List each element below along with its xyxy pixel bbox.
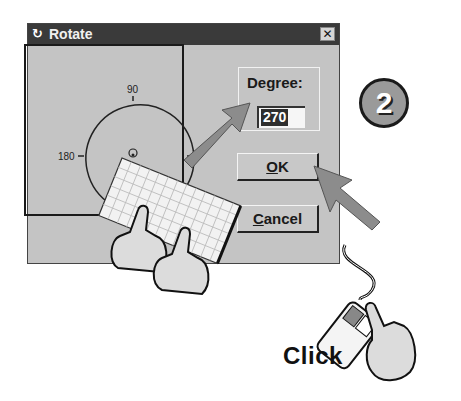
clicking-hand-icon xyxy=(366,303,415,380)
arrow-to-ok-icon xyxy=(314,166,380,230)
dial-label-90: 90 xyxy=(127,84,139,95)
dial-label-180: 180 xyxy=(58,151,75,162)
mouse-cord-icon xyxy=(344,245,375,300)
click-instruction-label: Click xyxy=(283,342,343,370)
arrow-to-degree-icon xyxy=(184,103,250,168)
illustration-layer: 90 180 0 xyxy=(0,0,461,401)
step-number-badge: 2 xyxy=(359,78,409,128)
